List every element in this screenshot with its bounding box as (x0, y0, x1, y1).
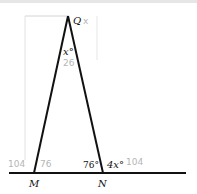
triangle-diagram: Q M N x° 76° 4x° x 26 104 76 104 (0, 0, 197, 194)
label-M: M (28, 178, 40, 189)
note-left-of-M: 104 (8, 159, 25, 169)
angle-Q-label: x° (63, 46, 74, 57)
angle-N-exterior-label: 4x° (106, 159, 124, 170)
note-right-of-4x: 104 (126, 157, 143, 167)
note-under-x: 26 (63, 58, 75, 68)
side-QN (68, 16, 103, 173)
note-right-of-M: 76 (40, 159, 52, 169)
side-QM (34, 16, 68, 173)
note-near-Q: x (83, 16, 89, 26)
label-N: N (97, 178, 108, 189)
label-Q: Q (73, 15, 81, 26)
angle-N-interior-label: 76° (83, 160, 99, 170)
